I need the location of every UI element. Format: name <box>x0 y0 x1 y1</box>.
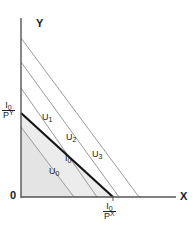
budget-line-label: I0 <box>65 154 71 163</box>
origin-label: 0 <box>10 190 16 201</box>
x-intercept-denominator-sup: X <box>110 210 115 217</box>
curve-label-u0-name: U <box>49 166 56 176</box>
indifference-curve-diagram: Y X 0 I0 PY I0 PX U1 U2 U3 U0 I0 <box>0 0 195 244</box>
curve-label-u3: U3 <box>92 150 102 159</box>
x-intercept-label: I0 PX <box>103 202 116 222</box>
curve-label-u0-sub: 0 <box>56 170 60 177</box>
y-intercept-label: I0 PY <box>2 101 15 121</box>
curve-label-u0: U0 <box>49 167 59 176</box>
curve-label-u1: U1 <box>42 113 52 122</box>
y-axis-label: Y <box>36 18 44 29</box>
curve-label-u3-name: U <box>92 149 99 159</box>
curve-label-u2: U2 <box>66 133 76 142</box>
curve-label-u2-name: U <box>66 132 73 142</box>
curve-label-u2-sub: 2 <box>73 136 77 143</box>
curve-label-u1-sub: 1 <box>49 116 53 123</box>
y-intercept-denominator-sup: Y <box>9 109 14 116</box>
budget-line-label-sub: 0 <box>68 157 72 164</box>
diagram-canvas <box>0 0 195 244</box>
curve-label-u3-sub: 3 <box>99 153 103 160</box>
x-axis-label: X <box>180 191 188 202</box>
curve-label-u1-name: U <box>42 112 49 122</box>
